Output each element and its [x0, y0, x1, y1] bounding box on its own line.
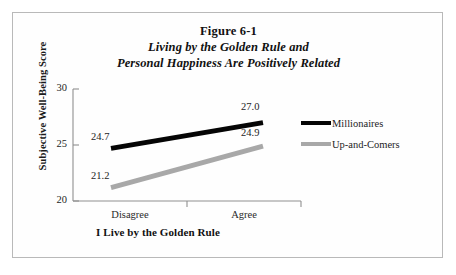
data-label-millionaires-agree: 27.0: [241, 101, 259, 112]
legend-label-up-and-comers: Up-and-Comers: [332, 139, 400, 150]
x-axis-title: I Live by the Golden Rule: [33, 226, 283, 238]
y-tick-label-20: 20: [41, 194, 67, 205]
legend-entry-up-and-comers: Up-and-Comers: [301, 134, 441, 154]
legend-swatch-millionaires: [301, 121, 331, 125]
x-tick-label-agree: Agree: [204, 209, 284, 220]
legend-swatch-up-and-comers: [301, 142, 331, 146]
series-line-up-and-comers: [111, 146, 263, 188]
legend-label-millionaires: Millionaires: [332, 118, 383, 129]
data-label-up-and-comers-agree: 24.9: [241, 127, 259, 138]
y-axis-title: Subjective Well-Being Score: [37, 51, 48, 171]
data-label-millionaires-disagree: 24.7: [91, 131, 109, 142]
data-label-up-and-comers-disagree: 21.2: [91, 170, 109, 181]
legend-entry-millionaires: Millionaires: [301, 113, 441, 133]
x-tick-label-disagree: Disagree: [90, 209, 170, 220]
figure-frame: Figure 6-1 Living by the Golden Rule and…: [12, 12, 443, 258]
chart-plot-area: 30 25 20 Disagree Agree Subjective Well-…: [13, 13, 444, 259]
chart-legend: Millionaires Up-and-Comers: [301, 113, 441, 155]
